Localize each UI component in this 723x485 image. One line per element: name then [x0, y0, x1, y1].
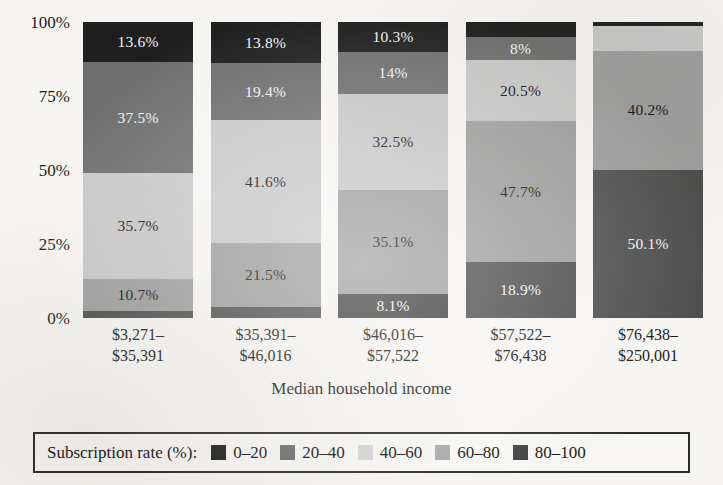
bar-segment[interactable]: 50.1% — [593, 170, 703, 318]
bar-segment[interactable]: 20.5% — [466, 60, 576, 121]
bar-segment-value-label: 10.7% — [117, 287, 158, 303]
bar-segment-value-label: 21.5% — [245, 267, 286, 283]
x-tick-line2: $76,438 — [466, 345, 576, 366]
bar-stack: 10.3%14%32.5%35.1%8.1% — [338, 22, 448, 318]
legend-swatch-icon — [211, 445, 226, 460]
bar-column[interactable]: 8%20.5%47.7%18.9% — [466, 22, 576, 318]
bar-segment[interactable]: 10.3% — [338, 22, 448, 52]
x-axis-tick-label: $57,522–$76,438 — [466, 324, 576, 366]
legend-item[interactable]: 40–60 — [358, 443, 423, 463]
legend-item-label: 80–100 — [535, 443, 586, 463]
x-tick-line1: $46,016– — [338, 324, 448, 345]
x-axis-tick-label: $3,271–$35,391 — [83, 324, 193, 366]
x-axis-tick-label: $76,438–$250,001 — [593, 324, 703, 366]
legend-title: Subscription rate (%): — [47, 443, 197, 463]
x-axis-tick-labels: $3,271–$35,391$35,391–$46,016$46,016–$57… — [83, 324, 703, 374]
bar-segment-value-label: 41.6% — [245, 174, 286, 190]
x-tick-line2: $250,001 — [593, 345, 703, 366]
bar-segment-value-label: 13.8% — [245, 35, 286, 51]
bar-segment-value-label: 14% — [378, 65, 407, 81]
bar-segment-value-label: 20.5% — [500, 83, 541, 99]
x-axis-tick-label: $35,391–$46,016 — [211, 324, 321, 366]
bar-segment[interactable]: 8% — [466, 37, 576, 61]
bar-segment[interactable]: 40.2% — [593, 51, 703, 170]
bar-segment[interactable] — [211, 307, 321, 318]
bar-segment-value-label: 19.4% — [245, 84, 286, 100]
bar-segment[interactable]: 8.1% — [338, 294, 448, 318]
x-tick-line2: $46,016 — [211, 345, 321, 366]
legend-item[interactable]: 80–100 — [513, 443, 586, 463]
x-tick-line1: $3,271– — [83, 324, 193, 345]
bar-stack: 13.6%37.5%35.7%10.7% — [83, 22, 193, 318]
stacked-bar-chart: 100%75%50%25%0% 13.6%37.5%35.7%10.7%13.8… — [0, 0, 723, 485]
x-tick-line1: $57,522– — [466, 324, 576, 345]
x-tick-line2: $57,522 — [338, 345, 448, 366]
bar-segment-value-label: 35.7% — [117, 218, 158, 234]
legend-swatch-icon — [435, 445, 450, 460]
x-tick-line2: $35,391 — [83, 345, 193, 366]
plot-area: 13.6%37.5%35.7%10.7%13.8%19.4%41.6%21.5%… — [83, 22, 703, 318]
bar-segment[interactable]: 13.8% — [211, 22, 321, 63]
bar-column[interactable]: 13.8%19.4%41.6%21.5% — [211, 22, 321, 318]
bar-segment-value-label: 50.1% — [627, 236, 668, 252]
bar-segment[interactable]: 18.9% — [466, 262, 576, 318]
x-axis-title: Median household income — [0, 379, 723, 399]
bar-segment[interactable]: 35.1% — [338, 190, 448, 294]
bar-segment[interactable]: 47.7% — [466, 121, 576, 262]
bar-segment-value-label: 35.1% — [372, 234, 413, 250]
legend-item-label: 40–60 — [380, 443, 423, 463]
bar-segment[interactable]: 41.6% — [211, 120, 321, 243]
bar-segment-value-label: 8.1% — [376, 298, 409, 314]
bar-segment[interactable] — [593, 26, 703, 51]
legend-item-label: 20–40 — [302, 443, 345, 463]
bar-stack: 8%20.5%47.7%18.9% — [466, 22, 576, 318]
y-axis-tick-label: 0% — [47, 310, 70, 327]
bar-segment[interactable]: 32.5% — [338, 94, 448, 190]
bar-segment[interactable]: 13.6% — [83, 22, 193, 62]
bar-segment-value-label: 47.7% — [500, 184, 541, 200]
bar-segment-value-label: 40.2% — [627, 102, 668, 118]
bar-stack: 40.2%50.1% — [593, 22, 703, 318]
legend-item-label: 0–20 — [233, 443, 267, 463]
bar-segment[interactable]: 14% — [338, 52, 448, 93]
y-axis-tick-label: 25% — [39, 236, 70, 253]
legend-swatch-icon — [358, 445, 373, 460]
bar-segment[interactable]: 35.7% — [83, 173, 193, 279]
bar-segment-value-label: 13.6% — [117, 34, 158, 50]
y-axis-tick-label: 75% — [39, 88, 70, 105]
legend-item[interactable]: 60–80 — [435, 443, 500, 463]
x-axis-tick-label: $46,016–$57,522 — [338, 324, 448, 366]
bar-column[interactable]: 13.6%37.5%35.7%10.7% — [83, 22, 193, 318]
legend-swatch-icon — [280, 445, 295, 460]
legend-item[interactable]: 20–40 — [280, 443, 345, 463]
x-tick-line1: $35,391– — [211, 324, 321, 345]
bar-column[interactable]: 40.2%50.1% — [593, 22, 703, 318]
bar-segment[interactable] — [83, 311, 193, 318]
bar-segment[interactable]: 21.5% — [211, 243, 321, 307]
bar-segment-value-label: 32.5% — [372, 134, 413, 150]
bar-column[interactable]: 10.3%14%32.5%35.1%8.1% — [338, 22, 448, 318]
legend-swatch-icon — [513, 445, 528, 460]
bar-segment[interactable]: 37.5% — [83, 62, 193, 173]
y-axis-tick-label: 50% — [39, 162, 70, 179]
y-axis: 100%75%50%25%0% — [0, 0, 78, 340]
bar-segment[interactable]: 10.7% — [83, 279, 193, 311]
y-axis-tick-label: 100% — [30, 14, 70, 31]
bar-segment-value-label: 37.5% — [117, 110, 158, 126]
bar-segment-value-label: 10.3% — [372, 29, 413, 45]
x-tick-line1: $76,438– — [593, 324, 703, 345]
bar-segment[interactable]: 19.4% — [211, 63, 321, 120]
legend-item[interactable]: 0–20 — [211, 443, 267, 463]
bar-stack: 13.8%19.4%41.6%21.5% — [211, 22, 321, 318]
bar-segment-value-label: 18.9% — [500, 282, 541, 298]
bar-segment[interactable] — [466, 22, 576, 37]
legend: Subscription rate (%): 0–2020–4040–6060–… — [33, 432, 690, 473]
bar-segment-value-label: 8% — [510, 41, 531, 57]
legend-item-label: 60–80 — [457, 443, 500, 463]
legend-items: 0–2020–4040–6060–8080–100 — [211, 443, 599, 463]
